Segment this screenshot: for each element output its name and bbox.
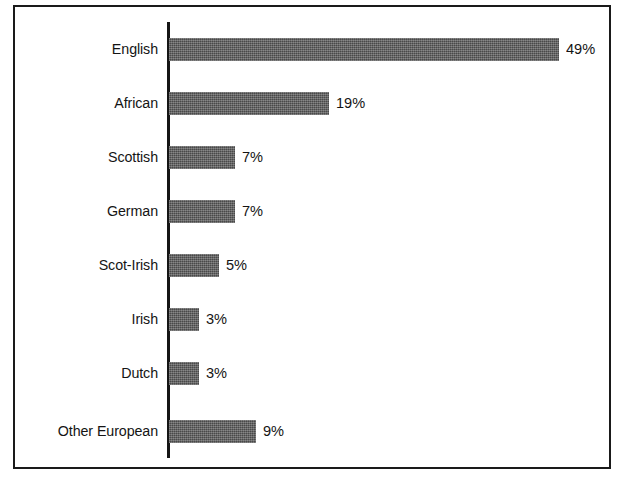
bar-rect — [169, 362, 199, 385]
bar-row: English 49% — [0, 22, 622, 76]
bar-category-label: English — [0, 22, 158, 76]
bar-track: 9% — [169, 404, 285, 458]
bar-value-label: 7% — [242, 203, 263, 219]
bar-chart-figure: English 49% African 19% Scottish 7% Germ… — [0, 0, 622, 487]
bar-category-label: Scottish — [0, 130, 158, 184]
bar-category-label: Scot-Irish — [0, 238, 158, 292]
bar-value-label: 19% — [336, 95, 365, 111]
bar-row: Other European 9% — [0, 404, 622, 458]
bar-row: Dutch 3% — [0, 346, 622, 400]
bar-value-label: 7% — [242, 149, 263, 165]
bar-category-label: Irish — [0, 292, 158, 346]
bar-track: 3% — [169, 292, 228, 346]
bar-track: 7% — [169, 130, 264, 184]
bar-value-label: 5% — [226, 257, 247, 273]
bar-row: Scot-Irish 5% — [0, 238, 622, 292]
bar-rect — [169, 308, 199, 331]
bar-row: German 7% — [0, 184, 622, 238]
bar-track: 3% — [169, 346, 228, 400]
bar-row: Scottish 7% — [0, 130, 622, 184]
bar-category-label: Dutch — [0, 346, 158, 400]
bar-category-label: German — [0, 184, 158, 238]
bar-value-label: 3% — [206, 311, 227, 327]
bar-track: 19% — [169, 76, 367, 130]
bar-track: 49% — [169, 22, 597, 76]
bar-track: 5% — [169, 238, 248, 292]
bar-rect — [169, 420, 256, 443]
bar-value-label: 3% — [206, 365, 227, 381]
bar-rect — [169, 38, 559, 61]
bar-rect — [169, 92, 329, 115]
bar-row: African 19% — [0, 76, 622, 130]
plot-area: English 49% African 19% Scottish 7% Germ… — [0, 0, 622, 487]
bar-value-label: 9% — [263, 423, 284, 439]
bar-rect — [169, 146, 235, 169]
bar-track: 7% — [169, 184, 264, 238]
bar-rect — [169, 254, 219, 277]
bar-category-label: Other European — [0, 404, 158, 458]
bar-rect — [169, 200, 235, 223]
bar-row: Irish 3% — [0, 292, 622, 346]
bar-value-label: 49% — [566, 41, 595, 57]
bar-category-label: African — [0, 76, 158, 130]
